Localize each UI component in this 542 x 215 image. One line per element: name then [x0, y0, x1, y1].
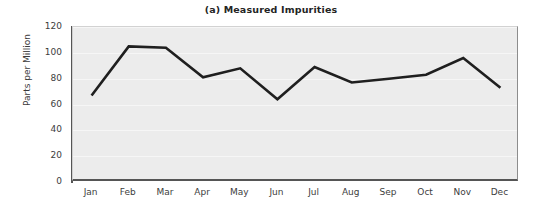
y-axis-title: Parts per Million	[22, 0, 32, 145]
line-series-measured-impurities	[73, 27, 519, 182]
x-tick-label-oct: Oct	[403, 187, 447, 197]
x-tick-label-aug: Aug	[329, 187, 373, 197]
x-tick-label-nov: Nov	[440, 187, 484, 197]
x-axis-tick-labels: JanFebMarAprMayJunJulAugSepOctNovDec	[72, 187, 518, 207]
y-tick-label: 100	[2, 47, 62, 57]
y-tick-label: 80	[2, 73, 62, 83]
x-tick-label-sep: Sep	[366, 187, 410, 197]
x-tick-label-jun: Jun	[254, 187, 298, 197]
y-tick-label: 40	[2, 124, 62, 134]
x-tick-label-may: May	[217, 187, 261, 197]
chart-figure: (a) Measured Impurities Parts per Millio…	[0, 0, 542, 215]
plot-area	[72, 26, 518, 181]
y-axis-tick-labels: 020406080100120	[0, 0, 68, 215]
x-tick-label-jul: Jul	[292, 187, 336, 197]
y-tick-label: 0	[2, 176, 62, 186]
chart-title: (a) Measured Impurities	[0, 4, 542, 15]
series-polyline	[92, 46, 501, 99]
x-tick-label-apr: Apr	[180, 187, 224, 197]
x-tick-label-jan: Jan	[69, 187, 113, 197]
x-tick-label-dec: Dec	[477, 187, 521, 197]
x-tick-label-feb: Feb	[106, 187, 150, 197]
y-tick-label: 60	[2, 99, 62, 109]
y-tick-label: 120	[2, 21, 62, 31]
y-tick-label: 20	[2, 150, 62, 160]
x-tick-label-mar: Mar	[143, 187, 187, 197]
